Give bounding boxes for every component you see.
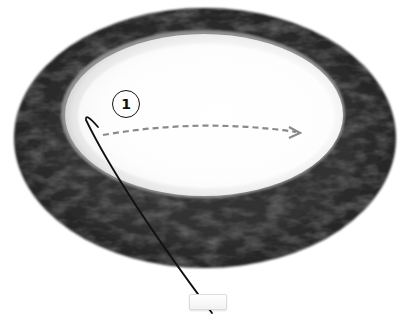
step-number-text: 1 xyxy=(121,96,131,112)
label-box xyxy=(189,294,227,310)
inner-field xyxy=(61,30,345,198)
diagram-svg xyxy=(0,0,404,323)
step-number-label: 1 xyxy=(112,90,140,118)
diagram-canvas: 1 xyxy=(0,0,404,323)
